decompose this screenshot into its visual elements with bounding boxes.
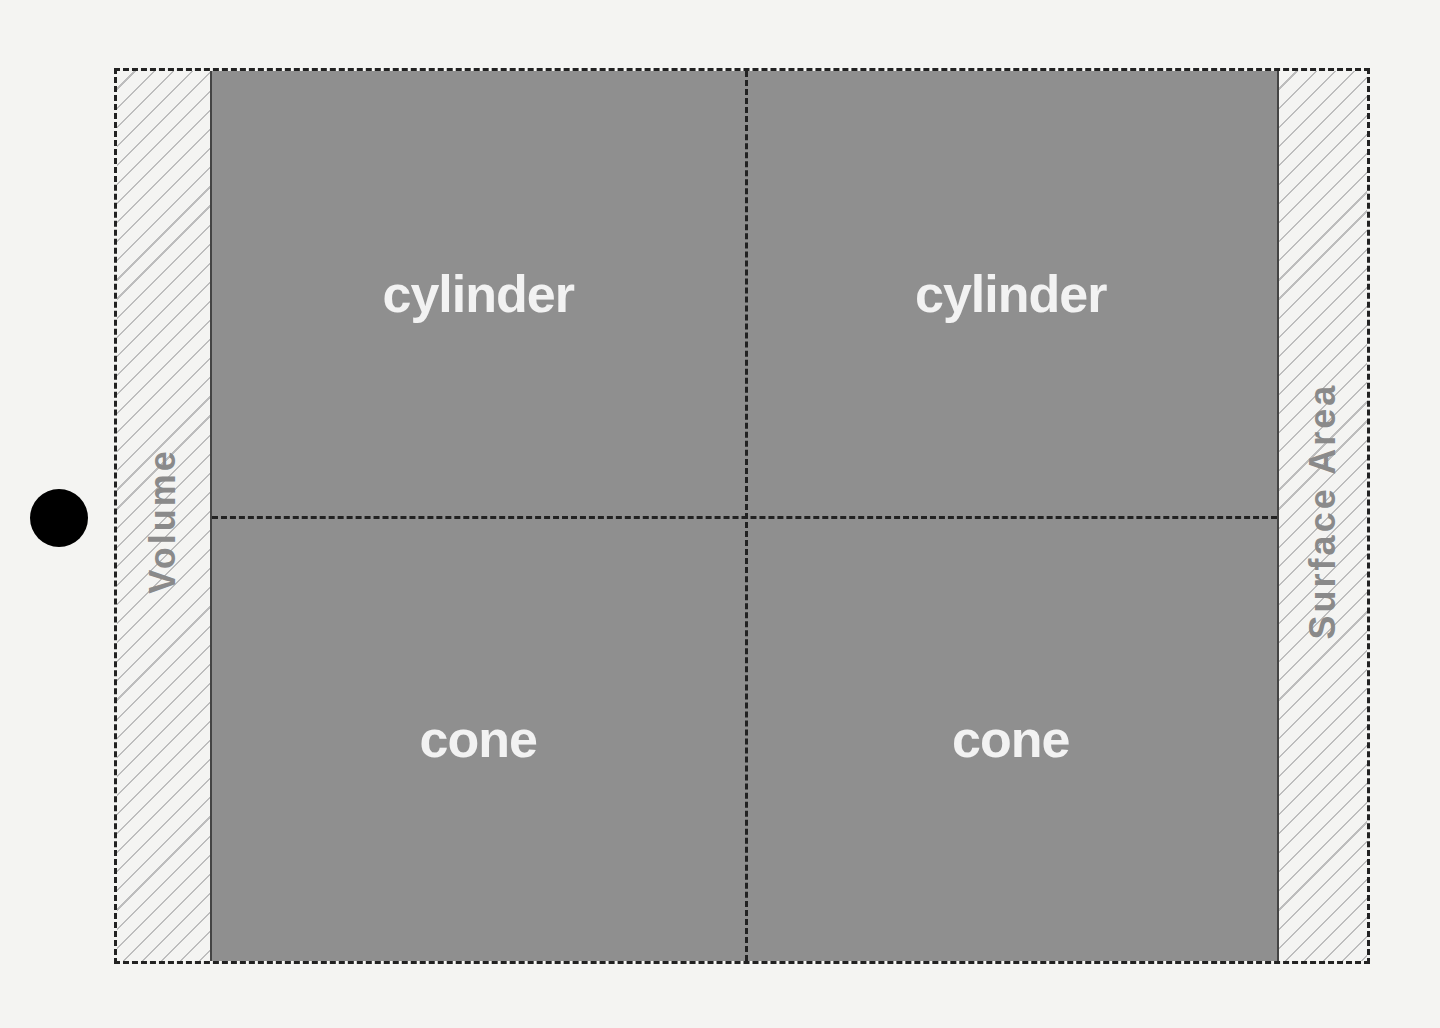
- horizontal-divider: [212, 516, 1277, 519]
- right-hatched-strip: Surface Area: [1279, 71, 1367, 961]
- diagram-frame: Volume Surface Area cylinder cylinder co…: [114, 68, 1370, 964]
- cell-bottom-left: cone: [212, 516, 745, 961]
- left-hatched-strip: Volume: [117, 71, 210, 961]
- shape-grid: cylinder cylinder cone cone: [210, 71, 1279, 961]
- marker-dot: [30, 489, 88, 547]
- cell-top-left: cylinder: [212, 71, 745, 516]
- cell-top-right: cylinder: [745, 71, 1278, 516]
- volume-label: Volume: [142, 448, 184, 593]
- surface-area-label: Surface Area: [1302, 383, 1344, 640]
- cell-bottom-right: cone: [745, 516, 1278, 961]
